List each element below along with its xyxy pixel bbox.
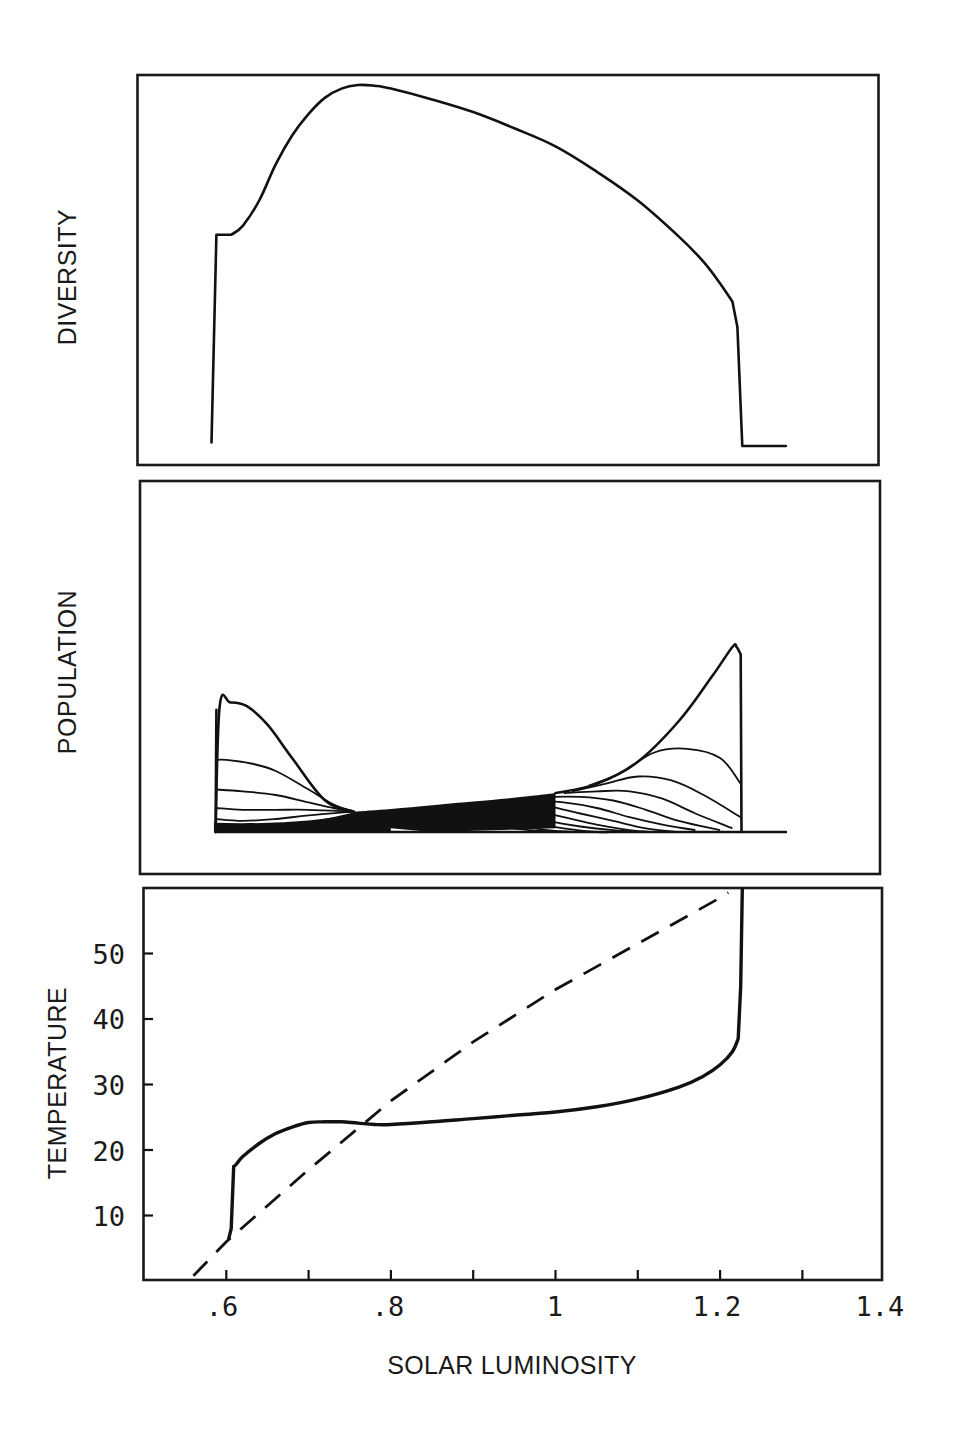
population-curve-cold-3 [216, 790, 354, 812]
temperature-no-life-dashed-line [193, 893, 728, 1276]
x-tick-label-0.6: .6 [206, 1291, 239, 1322]
y-tick-label-10: 10 [92, 1201, 125, 1232]
population-curve-cold-2 [216, 760, 354, 812]
x-axis-label: SOLAR LUMINOSITY [387, 1351, 636, 1379]
temperature-panel-frame [144, 888, 883, 1280]
daisyworld-figure: DIVERSITY POPULATION TEMPERATURE 10 20 3… [0, 0, 960, 1435]
population-curves [214, 644, 786, 832]
x-tick-label-1.4: 1.4 [856, 1291, 905, 1322]
temperature-with-daisies-curve [229, 889, 743, 1238]
y-axis-ticks [144, 954, 154, 1216]
x-tick-label-1: 1 [547, 1291, 563, 1322]
y-tick-label-20: 20 [92, 1136, 125, 1167]
y-tick-label-30: 30 [92, 1070, 125, 1101]
population-axis-label: POPULATION [53, 590, 81, 754]
x-tick-label-0.8: .8 [372, 1291, 405, 1322]
diversity-curve [212, 85, 786, 446]
x-axis-ticks [226, 1270, 802, 1280]
y-tick-label-50: 50 [92, 939, 125, 970]
diversity-axis-label: DIVERSITY [53, 209, 81, 345]
temperature-axis-label: TEMPERATURE [43, 987, 71, 1180]
y-tick-label-40: 40 [92, 1004, 125, 1035]
population-curve-warm-2 [588, 748, 740, 785]
diversity-panel-frame [138, 75, 879, 465]
population-left-edge [216, 710, 217, 832]
x-tick-label-1.2: 1.2 [693, 1291, 742, 1322]
population-curve-warm-1 [556, 644, 742, 832]
